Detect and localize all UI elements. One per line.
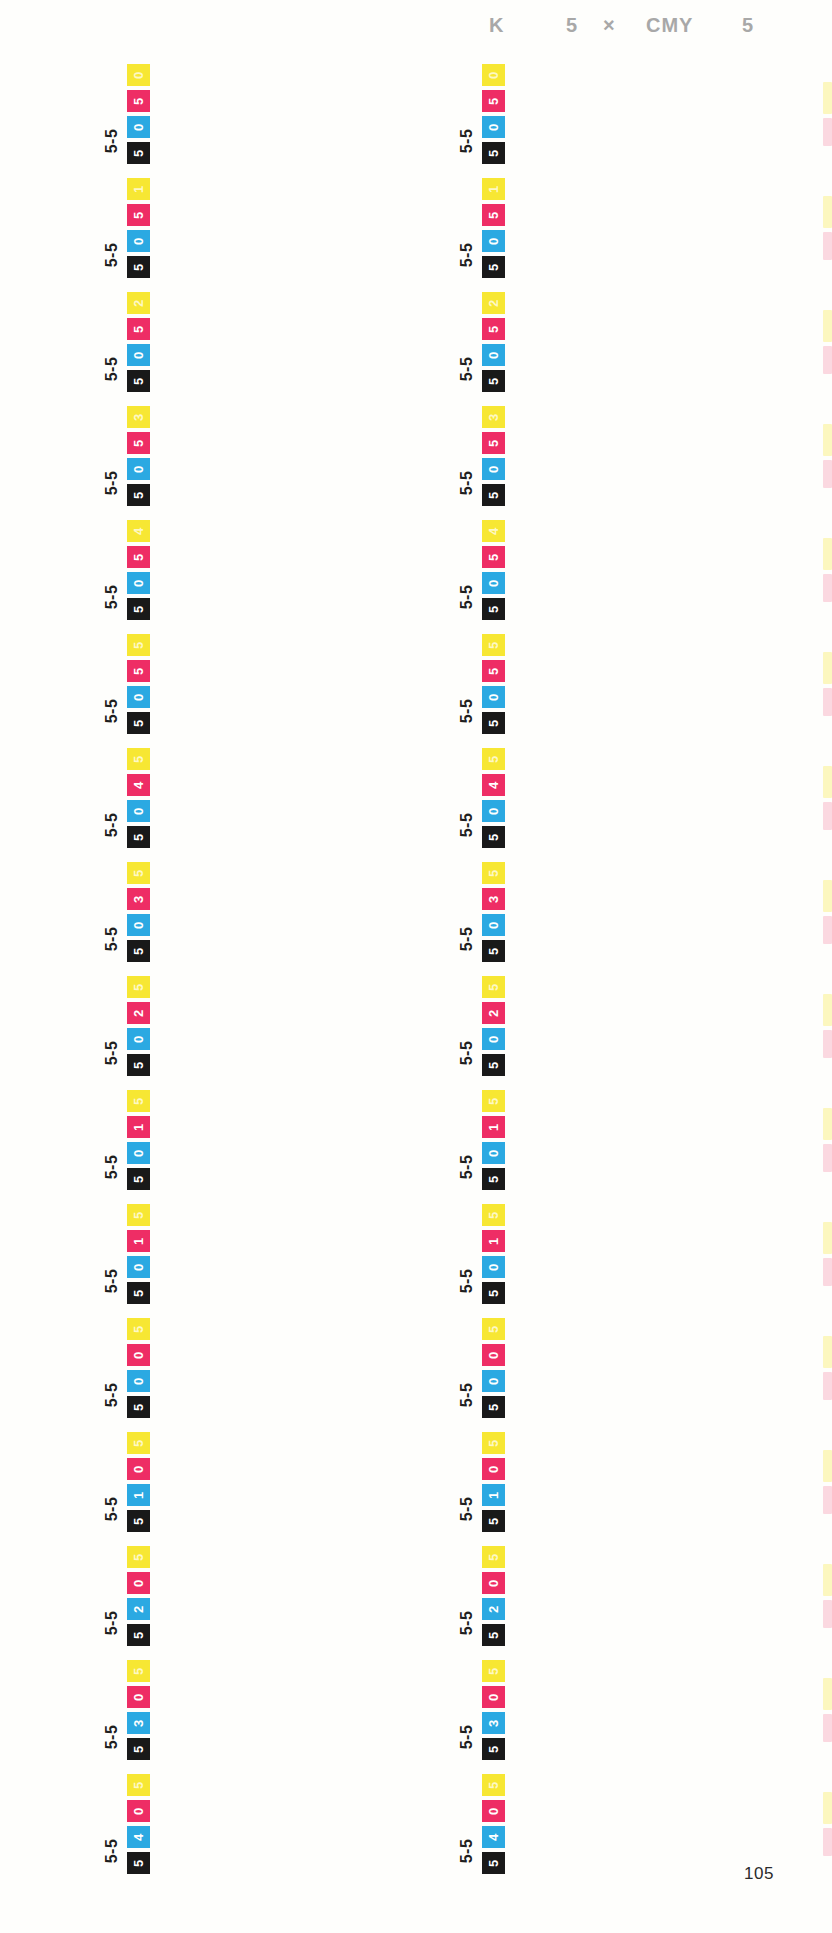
swatch-group: 5-51505 (99, 178, 150, 278)
cyan-chip: 1 (127, 1484, 150, 1506)
swatch-group: 5-54505 (99, 520, 150, 620)
page-edge-sliver-yellow (823, 1450, 832, 1482)
swatch-group: 5-55035 (454, 1660, 505, 1760)
yellow-chip: 5 (127, 1432, 150, 1454)
cyan-chip: 0 (482, 344, 505, 366)
cyan-chip: 0 (127, 686, 150, 708)
cyan-chip-value: 3 (487, 1719, 500, 1726)
black-chip-value: 5 (487, 719, 500, 726)
magenta-chip: 0 (127, 1458, 150, 1480)
chip-stack: 5105 (127, 1090, 150, 1190)
chip-stack: 3505 (482, 406, 505, 506)
magenta-chip: 5 (482, 432, 505, 454)
magenta-chip: 0 (127, 1800, 150, 1822)
chip-stack: 5035 (482, 1660, 505, 1760)
black-chip: 5 (482, 1738, 505, 1760)
cyan-chip: 0 (127, 1028, 150, 1050)
yellow-chip-value: 4 (487, 527, 500, 534)
yellow-chip-value: 5 (132, 869, 145, 876)
magenta-chip-value: 0 (132, 1351, 145, 1358)
magenta-chip: 1 (482, 1116, 505, 1138)
yellow-chip-value: 5 (487, 755, 500, 762)
black-chip-value: 5 (132, 1517, 145, 1524)
chip-stack: 5405 (482, 748, 505, 848)
cyan-chip: 0 (127, 1370, 150, 1392)
magenta-chip: 3 (482, 888, 505, 910)
swatch-group-label: 5-5 (100, 1144, 124, 1190)
black-chip-value: 5 (487, 491, 500, 498)
yellow-chip: 5 (482, 976, 505, 998)
cyan-chip: 0 (482, 230, 505, 252)
black-chip: 5 (127, 1510, 150, 1532)
page-edge-sliver-yellow (823, 1564, 832, 1596)
magenta-chip-value: 1 (132, 1237, 145, 1244)
chip-stack: 0505 (127, 64, 150, 164)
black-chip-value: 5 (132, 1061, 145, 1068)
yellow-chip-value: 5 (132, 1097, 145, 1104)
cyan-chip-value: 0 (132, 1035, 145, 1042)
magenta-chip-value: 5 (487, 325, 500, 332)
black-chip: 5 (127, 940, 150, 962)
cyan-chip-value: 0 (132, 123, 145, 130)
page-edge-sliver-yellow (823, 538, 832, 570)
page-edge-sliver-yellow (823, 880, 832, 912)
swatch-group: 5-55105 (99, 1204, 150, 1304)
magenta-chip-value: 4 (132, 781, 145, 788)
swatch-group-label: 5-5 (100, 1828, 124, 1874)
magenta-chip-value: 0 (487, 1465, 500, 1472)
black-chip-value: 5 (132, 833, 145, 840)
cyan-chip-value: 0 (487, 123, 500, 130)
yellow-chip: 5 (482, 748, 505, 770)
swatch-group: 5-53505 (454, 406, 505, 506)
cyan-chip-value: 3 (132, 1719, 145, 1726)
magenta-chip-value: 0 (132, 1579, 145, 1586)
yellow-chip-value: 2 (487, 299, 500, 306)
cyan-chip: 0 (127, 572, 150, 594)
yellow-chip-value: 5 (487, 983, 500, 990)
yellow-chip: 5 (127, 1204, 150, 1226)
magenta-chip-value: 3 (132, 895, 145, 902)
swatch-group: 5-52505 (454, 292, 505, 392)
magenta-chip-value: 5 (132, 439, 145, 446)
magenta-chip: 5 (127, 318, 150, 340)
color-chart-page: K 5 × CMY 5 5-505055-515055-525055-53505… (0, 0, 832, 1933)
chip-stack: 5005 (127, 1318, 150, 1418)
black-chip: 5 (482, 1054, 505, 1076)
cyan-chip: 0 (482, 1370, 505, 1392)
black-chip-value: 5 (132, 719, 145, 726)
page-number: 105 (744, 1864, 774, 1884)
yellow-chip-value: 5 (132, 1211, 145, 1218)
cyan-chip-value: 0 (487, 693, 500, 700)
swatch-group-label: 5-5 (100, 688, 124, 734)
yellow-chip-value: 3 (132, 413, 145, 420)
chip-stack: 5015 (482, 1432, 505, 1532)
cyan-chip-value: 2 (132, 1605, 145, 1612)
magenta-chip: 4 (482, 774, 505, 796)
page-edge-sliver-yellow (823, 1336, 832, 1368)
cyan-chip-value: 0 (487, 1035, 500, 1042)
yellow-chip-value: 5 (132, 983, 145, 990)
chip-stack: 5105 (482, 1204, 505, 1304)
swatch-group-label: 5-5 (455, 232, 479, 278)
swatch-group-label: 5-5 (455, 346, 479, 392)
cyan-chip-value: 0 (132, 351, 145, 358)
swatch-group: 5-55405 (99, 748, 150, 848)
page-edge-sliver-magenta (823, 232, 832, 260)
black-chip: 5 (127, 1852, 150, 1874)
chip-stack: 2505 (127, 292, 150, 392)
black-chip: 5 (482, 1624, 505, 1646)
black-chip-value: 5 (487, 605, 500, 612)
page-edge-sliver-yellow (823, 652, 832, 684)
black-chip-value: 5 (132, 377, 145, 384)
swatch-group-label: 5-5 (455, 460, 479, 506)
swatch-group-label: 5-5 (100, 1600, 124, 1646)
cyan-chip-value: 0 (132, 465, 145, 472)
page-edge-sliver-magenta (823, 1258, 832, 1286)
chip-stack: 5205 (482, 976, 505, 1076)
yellow-chip-value: 5 (487, 1439, 500, 1446)
cyan-chip-value: 0 (487, 1263, 500, 1270)
cyan-chip-value: 4 (487, 1833, 500, 1840)
swatch-group: 5-55105 (99, 1090, 150, 1190)
yellow-chip: 3 (482, 406, 505, 428)
cyan-chip-value: 0 (487, 921, 500, 928)
